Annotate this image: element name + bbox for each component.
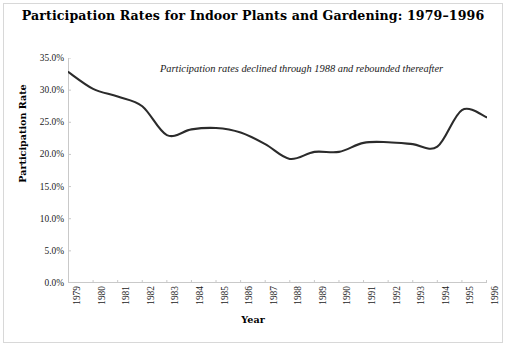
y-tick-label: 5.0% xyxy=(44,246,64,256)
x-tick-label: 1982 xyxy=(146,286,156,305)
x-tick-label: 1989 xyxy=(318,286,328,305)
x-tick-label: 1995 xyxy=(465,286,475,305)
axis-lines xyxy=(68,58,487,283)
chart-figure: Participation Rates for Indoor Plants an… xyxy=(0,0,506,353)
y-tick-label: 10.0% xyxy=(40,214,64,224)
y-axis-tick-labels: 0.0%5.0%10.0%15.0%20.0%25.0%30.0%35.0% xyxy=(18,58,64,283)
chart-title: Participation Rates for Indoor Plants an… xyxy=(0,8,506,23)
y-tick-label: 25.0% xyxy=(40,117,64,127)
x-tick-label: 1988 xyxy=(293,286,303,305)
x-tick-label: 1992 xyxy=(392,286,402,305)
line-chart-svg xyxy=(68,58,487,283)
y-tick-label: 0.0% xyxy=(44,278,64,288)
x-tick-label: 1985 xyxy=(220,286,230,305)
x-tick-label: 1987 xyxy=(269,286,279,305)
x-tick-label: 1980 xyxy=(97,286,107,305)
x-tick-label: 1979 xyxy=(72,286,82,305)
x-tick-label: 1984 xyxy=(195,286,205,305)
x-tick-label: 1993 xyxy=(416,286,426,305)
x-tick-label: 1991 xyxy=(367,286,377,305)
y-tick-label: 30.0% xyxy=(40,85,64,95)
x-tick-label: 1996 xyxy=(490,286,500,305)
x-tick-label: 1983 xyxy=(170,286,180,305)
y-tick-label: 15.0% xyxy=(40,182,64,192)
y-tick-label: 35.0% xyxy=(40,53,64,63)
y-tick-label: 20.0% xyxy=(40,149,64,159)
x-tick-label: 1990 xyxy=(342,286,352,305)
x-tick-label: 1994 xyxy=(441,286,451,305)
plot-area xyxy=(68,58,487,283)
data-series-line xyxy=(69,72,487,159)
x-tick-label: 1981 xyxy=(121,286,131,305)
x-axis-title: Year xyxy=(0,314,506,325)
x-tick-label: 1986 xyxy=(244,286,254,305)
